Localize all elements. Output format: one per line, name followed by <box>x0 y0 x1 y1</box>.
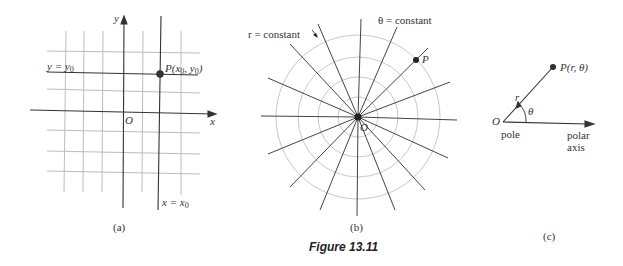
panel-c-point-label: P(r, θ) <box>560 62 588 73</box>
panel-a-x-axis-label: x <box>210 116 215 127</box>
panel-a-horizontal-line-label: y = y0 <box>47 61 74 74</box>
origin-dot <box>355 114 362 121</box>
figure-canvas <box>0 0 623 266</box>
panel-c-polar-axis-label-line1: polar <box>567 130 590 141</box>
panel-b-r-constant-label: r = constant <box>248 29 300 40</box>
panel-c-caption: (c) <box>543 231 555 242</box>
point-p-dot <box>413 57 419 63</box>
panel-b-markers <box>312 30 419 121</box>
panel-a-axes <box>30 16 216 210</box>
figure-caption: Figure 13.11 <box>309 240 378 254</box>
panel-c-theta-label: θ <box>528 106 533 117</box>
panel-a-caption: (a) <box>113 222 125 233</box>
panel-a-point-label: P(x0, y0) <box>165 63 202 76</box>
panel-b-point-label: P <box>422 54 429 65</box>
panel-c-origin-label: O <box>492 116 500 127</box>
panel-a-y-axis-label: y <box>114 13 119 24</box>
panel-a-origin-label: O <box>125 115 133 126</box>
panel-c-polar-axis-label-line2: axis <box>567 142 585 153</box>
panel-c-r-label: r <box>515 92 519 103</box>
panel-b-caption: (b) <box>350 222 363 233</box>
panel-c-pole-label: pole <box>501 129 520 140</box>
panel-b-theta-constant-label: θ = constant <box>378 15 432 26</box>
panel-a-vertical-line-label: x = x0 <box>162 197 189 210</box>
panel-b-origin-label: O <box>360 122 368 133</box>
